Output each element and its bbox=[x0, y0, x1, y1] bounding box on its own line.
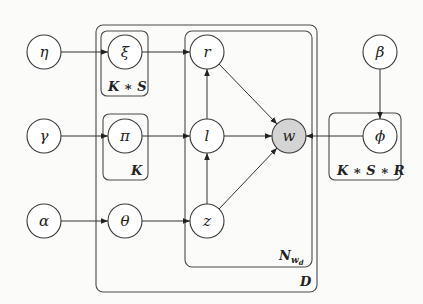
plate-ks-label: K ∗ S bbox=[107, 79, 147, 94]
node-z: z bbox=[190, 204, 224, 238]
svg-text:β: β bbox=[375, 43, 385, 61]
svg-text:ξ: ξ bbox=[121, 43, 130, 61]
node-gamma: γ bbox=[27, 119, 61, 153]
node-eta: η bbox=[27, 35, 61, 69]
svg-text:ϕ: ϕ bbox=[375, 127, 385, 145]
node-beta: β bbox=[363, 35, 397, 69]
svg-text:α: α bbox=[39, 212, 49, 230]
node-pi: π bbox=[108, 119, 142, 153]
svg-text:z: z bbox=[202, 212, 211, 230]
svg-text:π: π bbox=[119, 127, 131, 145]
node-phi: ϕ bbox=[363, 119, 397, 153]
svg-text:w: w bbox=[283, 127, 296, 145]
edge-z-w bbox=[219, 148, 277, 209]
node-r: r bbox=[190, 35, 224, 69]
node-w-observed: w bbox=[272, 119, 306, 153]
plate-nwd-label: Nwd bbox=[278, 248, 304, 267]
plate-d-label: D bbox=[299, 274, 312, 289]
plate-k-label: K bbox=[130, 163, 143, 178]
graphical-model-diagram: K ∗ S K K ∗ S ∗ R Nwd D η ξ r β γ π l w … bbox=[0, 0, 423, 304]
node-l: l bbox=[190, 119, 224, 153]
edge-r-w bbox=[219, 64, 277, 124]
svg-text:η: η bbox=[40, 43, 49, 61]
node-theta: θ bbox=[108, 204, 142, 238]
node-xi: ξ bbox=[108, 35, 142, 69]
svg-text:l: l bbox=[205, 127, 210, 145]
svg-text:r: r bbox=[203, 43, 211, 61]
svg-text:θ: θ bbox=[120, 212, 129, 230]
svg-text:γ: γ bbox=[40, 127, 49, 145]
node-alpha: α bbox=[27, 204, 61, 238]
plate-ksr-label: K ∗ S ∗ R bbox=[336, 163, 405, 178]
